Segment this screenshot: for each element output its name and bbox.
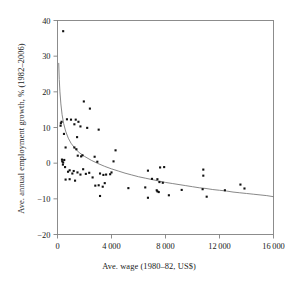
data-point — [69, 169, 71, 171]
trend-curve-path — [59, 63, 274, 196]
y-tick-label: 10 — [42, 124, 50, 133]
x-tick-label: 8 000 — [156, 242, 174, 251]
data-point — [96, 161, 98, 163]
data-point — [77, 155, 79, 157]
axis-tick-labels: 04 0008 00012 00016 000−20−10010203040 — [37, 17, 284, 251]
data-point — [98, 129, 100, 131]
data-point — [77, 121, 79, 123]
axis-tick-marks — [54, 21, 274, 239]
data-point — [73, 146, 75, 148]
data-point — [202, 175, 204, 177]
data-point — [162, 182, 164, 184]
data-point — [127, 187, 129, 189]
y-tick-label: 40 — [42, 17, 50, 26]
data-point — [92, 176, 94, 178]
data-point — [147, 170, 149, 172]
data-point — [105, 174, 107, 176]
data-point — [98, 184, 100, 186]
data-point — [70, 119, 72, 121]
data-point — [62, 164, 64, 166]
data-point — [102, 186, 104, 188]
trend-curve — [59, 63, 274, 196]
data-point — [60, 122, 62, 124]
y-tick-label: −10 — [37, 195, 50, 204]
data-point — [81, 154, 83, 156]
x-tick-label: 4 000 — [102, 242, 120, 251]
data-point — [75, 148, 77, 150]
x-tick-label: 0 — [55, 242, 59, 251]
data-point — [110, 171, 112, 173]
x-tick-label: 16 000 — [262, 242, 285, 251]
data-point — [63, 133, 65, 135]
data-point — [88, 172, 90, 174]
data-point — [159, 166, 161, 168]
data-point — [168, 194, 170, 196]
data-point — [86, 127, 88, 129]
scatter-plot: 04 0008 00012 00016 000−20−10010203040 — [0, 0, 298, 293]
y-tick-label: 30 — [42, 52, 50, 61]
data-point — [102, 174, 104, 176]
data-point — [147, 197, 149, 199]
data-point — [71, 172, 73, 174]
data-point — [202, 169, 204, 171]
data-point — [99, 172, 101, 174]
x-tick-label: 12 000 — [208, 242, 231, 251]
data-point — [66, 118, 68, 120]
data-point — [73, 170, 75, 172]
chart-figure: 04 0008 00012 00016 000−20−10010203040 A… — [0, 0, 298, 293]
data-point — [79, 174, 81, 176]
data-point — [144, 186, 146, 188]
data-point — [83, 100, 85, 102]
data-point — [76, 136, 78, 138]
data-point — [163, 166, 165, 168]
y-tick-label: 0 — [46, 159, 50, 168]
data-point — [74, 180, 76, 182]
y-tick-label: −20 — [37, 231, 50, 240]
plot-frame — [58, 21, 274, 235]
data-point — [224, 189, 226, 191]
data-point-group — [60, 30, 246, 199]
data-point — [239, 184, 241, 186]
data-point — [99, 195, 101, 197]
data-point — [94, 185, 96, 187]
data-point — [85, 173, 87, 175]
data-point — [181, 189, 183, 191]
data-point — [65, 179, 67, 181]
data-point — [243, 187, 245, 189]
data-point — [69, 178, 71, 180]
data-point — [151, 178, 153, 180]
data-point — [112, 160, 114, 162]
data-point — [104, 182, 106, 184]
data-point — [63, 159, 65, 161]
data-point — [62, 30, 64, 32]
data-point — [65, 146, 67, 148]
y-axis-title: Ave. annual employment growth, % (1982–2… — [17, 20, 26, 238]
data-point — [89, 108, 91, 110]
data-point — [82, 168, 84, 170]
data-point — [115, 149, 117, 151]
data-point — [73, 123, 75, 125]
data-point — [94, 156, 96, 158]
data-point — [202, 188, 204, 190]
y-tick-label: 20 — [42, 88, 50, 97]
x-axis-title: Ave. wage (1980–82, US$) — [0, 262, 298, 271]
data-point — [75, 119, 77, 121]
data-point — [76, 171, 78, 173]
data-point — [62, 161, 64, 163]
data-point — [79, 125, 81, 127]
data-point — [158, 191, 160, 193]
data-point — [158, 181, 160, 183]
data-point — [64, 166, 66, 168]
data-point — [60, 125, 62, 127]
data-point — [206, 196, 208, 198]
data-point — [156, 178, 158, 180]
